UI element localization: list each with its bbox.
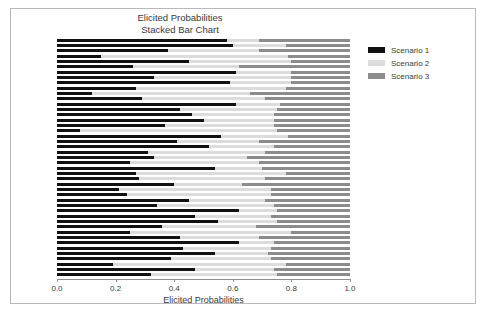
bar-segment-scenario-1 (57, 129, 80, 132)
bar-row (57, 273, 350, 276)
bar-segment-scenario-1 (57, 209, 239, 212)
bar-segment-scenario-3 (259, 49, 350, 52)
legend-label-scenario-3: Scenario 3 (391, 72, 429, 81)
bar-segment-scenario-3 (274, 119, 350, 122)
bar-segment-scenario-1 (57, 199, 189, 202)
bar-segment-scenario-1 (57, 268, 195, 271)
bar-segment-scenario-3 (286, 87, 350, 90)
bar-segment-scenario-1 (57, 55, 101, 58)
bar-segment-scenario-2 (101, 55, 289, 58)
bar-segment-scenario-2 (133, 65, 238, 68)
bar-segment-scenario-1 (57, 108, 180, 111)
bar-segment-scenario-3 (280, 103, 350, 106)
bar-segment-scenario-3 (256, 225, 350, 228)
bar-segment-scenario-2 (151, 273, 277, 276)
chart-title-line-2: Stacked Bar Chart (141, 24, 219, 35)
bar-row (57, 177, 350, 180)
bar-segment-scenario-2 (177, 140, 259, 143)
bar-row (57, 108, 350, 111)
bar-row (57, 225, 350, 228)
bar-segment-scenario-1 (57, 49, 168, 52)
bar-segment-scenario-3 (291, 60, 350, 63)
bar-row (57, 252, 350, 255)
legend-item-scenario-2: Scenario 2 (368, 57, 468, 69)
bar-segment-scenario-1 (57, 225, 162, 228)
x-axis-tick (57, 279, 58, 282)
bar-segment-scenario-3 (274, 124, 350, 127)
legend-swatch-scenario-1 (368, 47, 385, 53)
bar-segment-scenario-1 (57, 103, 236, 106)
bar-segment-scenario-2 (92, 92, 250, 95)
bar-segment-scenario-3 (291, 81, 350, 84)
bar-row (57, 55, 350, 58)
bar-segment-scenario-3 (286, 44, 350, 47)
bar-segment-scenario-3 (259, 236, 350, 239)
x-axis-tick (174, 279, 175, 282)
chart-legend: Scenario 1Scenario 2Scenario 3 (368, 44, 468, 83)
x-axis-tick (233, 279, 234, 282)
chart-figure: Elicited Probabilities Stacked Bar Chart… (0, 0, 486, 320)
bar-segment-scenario-3 (291, 76, 350, 79)
plot-area (57, 38, 350, 278)
bar-segment-scenario-3 (274, 204, 350, 207)
bar-segment-scenario-1 (57, 145, 209, 148)
bar-segment-scenario-1 (57, 220, 218, 223)
bar-row (57, 97, 350, 100)
bar-segment-scenario-2 (236, 103, 280, 106)
bar-segment-scenario-2 (165, 124, 273, 127)
bar-segment-scenario-2 (180, 236, 259, 239)
bar-segment-scenario-3 (271, 188, 350, 191)
bar-row (57, 236, 350, 239)
bar-segment-scenario-1 (57, 39, 227, 42)
legend-label-scenario-2: Scenario 2 (391, 59, 429, 68)
bar-row (57, 140, 350, 143)
x-axis-label: Elicited Probabilities (57, 295, 350, 305)
bar-segment-scenario-2 (157, 204, 274, 207)
bar-segment-scenario-2 (130, 161, 259, 164)
bar-segment-scenario-2 (209, 145, 273, 148)
bar-segment-scenario-2 (204, 119, 274, 122)
bar-segment-scenario-1 (57, 161, 130, 164)
bar-segment-scenario-2 (189, 60, 292, 63)
bar-segment-scenario-2 (218, 220, 277, 223)
x-axis-tick (350, 279, 351, 282)
bar-segment-scenario-1 (57, 252, 215, 255)
bar-row (57, 113, 350, 116)
bar-row (57, 231, 350, 234)
x-axis-tick-label: 0.4 (169, 284, 180, 293)
x-axis-line (57, 279, 350, 280)
legend-item-scenario-3: Scenario 3 (368, 70, 468, 82)
bar-segment-scenario-2 (127, 193, 271, 196)
x-axis-tick-label: 0.0 (51, 284, 62, 293)
bar-segment-scenario-2 (233, 44, 286, 47)
bar-segment-scenario-1 (57, 156, 154, 159)
bar-row (57, 241, 350, 244)
bar-row (57, 204, 350, 207)
bar-segment-scenario-1 (57, 119, 204, 122)
bar-segment-scenario-2 (227, 39, 259, 42)
bar-segment-scenario-2 (113, 263, 286, 266)
bar-row (57, 188, 350, 191)
bar-segment-scenario-2 (239, 241, 274, 244)
bar-segment-scenario-1 (57, 177, 139, 180)
bar-segment-scenario-3 (277, 220, 350, 223)
bar-row (57, 257, 350, 260)
bar-segment-scenario-3 (265, 97, 350, 100)
bar-segment-scenario-3 (271, 247, 350, 250)
bar-segment-scenario-1 (57, 188, 119, 191)
bar-segment-scenario-1 (57, 140, 177, 143)
bar-segment-scenario-2 (136, 87, 285, 90)
bar-segment-scenario-3 (277, 108, 350, 111)
bar-row (57, 103, 350, 106)
bar-segment-scenario-2 (154, 76, 292, 79)
bar-row (57, 268, 350, 271)
bar-row (57, 71, 350, 74)
bar-row (57, 129, 350, 132)
bar-segment-scenario-2 (195, 215, 271, 218)
bar-segment-scenario-1 (57, 71, 236, 74)
bar-segment-scenario-2 (154, 156, 248, 159)
bar-segment-scenario-3 (274, 268, 350, 271)
bar-segment-scenario-3 (288, 55, 350, 58)
x-axis-tick (116, 279, 117, 282)
bar-segment-scenario-2 (139, 177, 265, 180)
